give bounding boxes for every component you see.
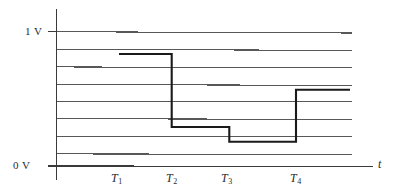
gridline bbox=[56, 85, 352, 86]
x-tick-label-t2: T2 bbox=[166, 172, 177, 184]
x-tick-label-t2-base: T bbox=[166, 171, 173, 185]
y-axis-label-top: 1 V bbox=[25, 26, 43, 37]
x-tick-label-t3-sub: 3 bbox=[228, 177, 232, 186]
x-tick-label-t4-sub: 4 bbox=[297, 177, 301, 186]
gridline bbox=[56, 32, 352, 33]
x-tick-label-t2-sub: 2 bbox=[173, 177, 177, 186]
y-axis-label-bottom: 0 V bbox=[13, 160, 31, 171]
x-tick-label-t3-base: T bbox=[221, 171, 228, 185]
gridline bbox=[56, 136, 352, 137]
gridline bbox=[56, 101, 352, 102]
gridline bbox=[56, 49, 352, 50]
gridline bbox=[56, 154, 352, 155]
x-tick-label-t1-base: T bbox=[111, 171, 118, 185]
x-tick-label-t1: T1 bbox=[111, 172, 122, 184]
x-tick-label-t4: T4 bbox=[290, 172, 301, 184]
voltage-step-waveform-figure: 1 V 0 V t T1 T2 T3 T4 bbox=[0, 0, 395, 196]
x-tick-label-t3: T3 bbox=[221, 172, 232, 184]
x-tick-label-t1-sub: 1 bbox=[118, 177, 122, 186]
gridline bbox=[56, 67, 352, 68]
gridline bbox=[56, 119, 352, 120]
horizontal-gridlines bbox=[56, 32, 352, 155]
x-tick-label-t4-base: T bbox=[290, 171, 297, 185]
x-axis-line bbox=[48, 166, 373, 167]
plot-canvas bbox=[0, 0, 395, 196]
x-axis-variable-label: t bbox=[378, 158, 381, 170]
